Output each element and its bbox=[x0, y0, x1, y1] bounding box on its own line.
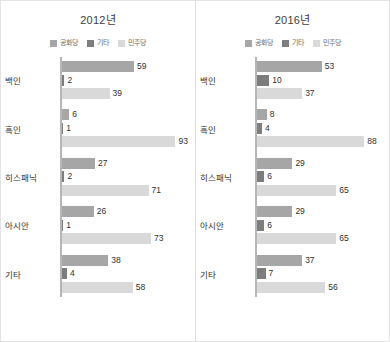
bar-group: 아시안29665 bbox=[196, 202, 389, 250]
legend-item-other: 기타 bbox=[87, 39, 109, 47]
bar-row-democrat: 65 bbox=[257, 185, 389, 196]
category-label: 히스패닉 bbox=[200, 173, 252, 183]
bar-other bbox=[257, 220, 264, 231]
category-label: 흑인 bbox=[200, 125, 252, 135]
bar-row-republican: 8 bbox=[257, 109, 389, 120]
bar-republican bbox=[257, 109, 267, 120]
bar-group: 히스패닉27271 bbox=[1, 154, 195, 202]
bar-group: 백인59239 bbox=[1, 57, 195, 105]
panel-title: 2016년 bbox=[196, 13, 389, 27]
bar-value-label: 37 bbox=[305, 88, 314, 99]
legend: 공화당 기타 민주당 bbox=[196, 38, 389, 48]
legend-swatch-democrat bbox=[118, 40, 125, 47]
bar-democrat bbox=[62, 282, 133, 293]
bar-value-label: 1 bbox=[66, 220, 71, 231]
bar-row-republican: 26 bbox=[62, 206, 195, 217]
bar-groups: 백인59239흑인6193히스패닉27271아시안26173기타38458 bbox=[1, 57, 195, 305]
bar-stack: 8488 bbox=[257, 109, 389, 150]
bar-value-label: 73 bbox=[154, 233, 163, 244]
legend-label-republican: 공화당 bbox=[255, 39, 273, 47]
bar-row-democrat: 58 bbox=[62, 282, 195, 293]
bar-value-label: 10 bbox=[272, 75, 281, 86]
bar-democrat bbox=[257, 88, 302, 99]
bar-value-label: 4 bbox=[265, 123, 270, 134]
legend: 공화당 기타 민주당 bbox=[1, 38, 195, 48]
legend-label-democrat: 민주당 bbox=[128, 39, 146, 47]
bar-value-label: 26 bbox=[97, 206, 106, 217]
bar-democrat bbox=[62, 233, 151, 244]
category-label: 아시안 bbox=[5, 221, 57, 231]
bar-other bbox=[257, 75, 269, 86]
bar-value-label: 39 bbox=[113, 88, 122, 99]
legend-item-other: 기타 bbox=[282, 39, 304, 47]
bar-other bbox=[257, 123, 262, 134]
bar-other bbox=[62, 220, 63, 231]
bar-row-other: 6 bbox=[257, 171, 389, 182]
category-label: 기타 bbox=[200, 270, 252, 280]
category-label: 백인 bbox=[5, 76, 57, 86]
bar-row-republican: 53 bbox=[257, 61, 389, 72]
bar-stack: 26173 bbox=[62, 206, 195, 247]
bar-group: 백인531037 bbox=[196, 57, 389, 105]
bar-row-republican: 29 bbox=[257, 158, 389, 169]
bar-row-republican: 29 bbox=[257, 206, 389, 217]
bar-value-label: 65 bbox=[339, 185, 348, 196]
bar-group: 기타37756 bbox=[196, 251, 389, 299]
bar-group: 아시안26173 bbox=[1, 202, 195, 250]
legend-label-other: 기타 bbox=[97, 39, 109, 47]
legend-label-other: 기타 bbox=[292, 39, 304, 47]
bar-value-label: 59 bbox=[137, 61, 146, 72]
bar-value-label: 7 bbox=[269, 268, 274, 279]
bar-row-democrat: 37 bbox=[257, 88, 389, 99]
bar-row-other: 4 bbox=[62, 268, 195, 279]
legend-item-republican: 공화당 bbox=[245, 39, 273, 47]
legend-swatch-republican bbox=[50, 40, 57, 47]
bar-value-label: 56 bbox=[328, 282, 337, 293]
bar-group: 흑인6193 bbox=[1, 105, 195, 153]
bar-value-label: 29 bbox=[295, 206, 304, 217]
bar-value-label: 29 bbox=[295, 158, 304, 169]
legend-label-democrat: 민주당 bbox=[323, 39, 341, 47]
category-label: 아시안 bbox=[200, 221, 252, 231]
bar-value-label: 58 bbox=[136, 282, 145, 293]
category-label: 기타 bbox=[5, 270, 57, 280]
bar-row-democrat: 65 bbox=[257, 233, 389, 244]
bar-value-label: 27 bbox=[98, 158, 107, 169]
bar-republican bbox=[62, 255, 108, 266]
category-label: 백인 bbox=[200, 76, 252, 86]
bar-democrat bbox=[257, 185, 336, 196]
bar-democrat bbox=[257, 233, 336, 244]
bar-group: 히스패닉29665 bbox=[196, 154, 389, 202]
category-label: 흑인 bbox=[5, 125, 57, 135]
bar-republican bbox=[62, 206, 94, 217]
legend-swatch-other bbox=[282, 40, 289, 47]
bar-republican bbox=[257, 255, 302, 266]
bar-row-democrat: 56 bbox=[257, 282, 389, 293]
bar-democrat bbox=[257, 136, 364, 147]
bar-row-republican: 27 bbox=[62, 158, 195, 169]
bar-stack: 27271 bbox=[62, 158, 195, 199]
category-label: 히스패닉 bbox=[5, 173, 57, 183]
bar-democrat bbox=[257, 282, 325, 293]
bar-stack: 29665 bbox=[257, 206, 389, 247]
bar-republican bbox=[257, 206, 292, 217]
legend-swatch-democrat bbox=[313, 40, 320, 47]
legend-item-republican: 공화당 bbox=[50, 39, 78, 47]
bar-group: 흑인8488 bbox=[196, 105, 389, 153]
bar-value-label: 71 bbox=[152, 185, 161, 196]
chart-figure: 2012년 공화당 기타 민주당 백인59239흑인6193히스패닉27271아… bbox=[0, 0, 390, 342]
bar-democrat bbox=[62, 88, 110, 99]
bar-row-democrat: 93 bbox=[62, 136, 195, 147]
bar-value-label: 38 bbox=[111, 255, 120, 266]
panel-title: 2012년 bbox=[1, 13, 195, 27]
bar-republican bbox=[62, 109, 69, 120]
legend-label-republican: 공화당 bbox=[60, 39, 78, 47]
legend-item-democrat: 민주당 bbox=[313, 39, 341, 47]
bar-stack: 59239 bbox=[62, 61, 195, 102]
bar-other bbox=[257, 268, 266, 279]
chart-panel-2012: 2012년 공화당 기타 민주당 백인59239흑인6193히스패닉27271아… bbox=[1, 1, 195, 341]
bar-value-label: 2 bbox=[67, 171, 72, 182]
bar-democrat bbox=[62, 185, 149, 196]
bar-row-other: 1 bbox=[62, 123, 195, 134]
bar-row-republican: 6 bbox=[62, 109, 195, 120]
